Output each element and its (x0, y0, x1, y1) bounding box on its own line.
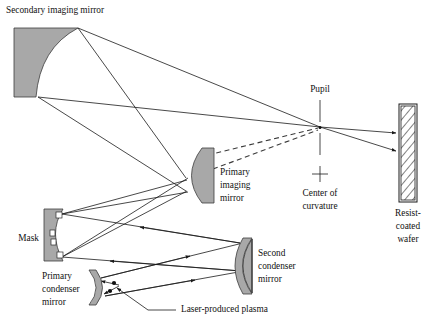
primary-imaging-mirror-body (192, 148, 215, 203)
ray-mask-to-primary-imaging-lower (62, 191, 187, 257)
optical-system-diagram: Secondary imaging mirror Primary imaging… (0, 0, 433, 333)
ray-primary-condenser-to-second-lower-arrow (105, 280, 195, 296)
primary-condenser-mirror-label-line3: mirror (42, 297, 67, 307)
mask-patch-middle-lower (51, 239, 56, 245)
pupil-marker[interactable] (319, 100, 322, 155)
resist-coated-wafer-hatch (401, 106, 415, 200)
resist-coated-wafer-label-line1: Resist- (395, 208, 421, 218)
resist-coated-wafer[interactable] (399, 104, 417, 202)
primary-condenser-mirror[interactable] (89, 270, 103, 305)
primary-condenser-mirror-crescent (89, 270, 103, 305)
ray-group-virtual-dashed (205, 128, 318, 172)
ray-primary-imaging-to-secondary-bottom (38, 97, 186, 191)
primary-imaging-mirror-label-line1: Primary (220, 167, 250, 177)
laser-produced-plasma-source-upper (112, 281, 116, 285)
laser-produced-plasma-source-lower (108, 289, 112, 293)
primary-imaging-mirror[interactable] (192, 148, 215, 203)
primary-condenser-mirror-label-line2: condenser (42, 284, 81, 294)
ray-group-mask-to-primary-imaging (62, 178, 188, 257)
center-of-curvature-label-line2: curvature (302, 201, 337, 211)
pupil-label: Pupil (310, 84, 330, 94)
secondary-imaging-mirror[interactable] (14, 28, 78, 97)
mask-label: Mask (18, 233, 39, 243)
primary-imaging-mirror-label-line3: mirror (220, 193, 245, 203)
second-condenser-mirror-label-line3: mirror (258, 274, 283, 284)
ray-plasma-to-condenser-upper (101, 281, 119, 285)
resist-coated-wafer-label-line2: coated (396, 221, 421, 231)
secondary-imaging-mirror-label: Secondary imaging mirror (6, 5, 105, 15)
center-of-curvature-label-line1: Center of (303, 188, 339, 198)
center-of-curvature-marker[interactable] (312, 166, 328, 182)
ray-secondary-top-to-pupil (78, 28, 320, 127)
mask-patch-bottom (57, 252, 63, 258)
mask-patch-top (56, 212, 62, 218)
mask[interactable] (44, 209, 63, 261)
resist-coated-wafer-label-line3: wafer (397, 234, 419, 244)
ray-mask-edge-to-primary-imaging (62, 192, 188, 214)
primary-condenser-mirror-label-line1: Primary (42, 271, 72, 281)
second-condenser-mirror[interactable] (235, 238, 252, 294)
pupil-point (319, 126, 322, 129)
second-condenser-mirror-label-line2: condenser (258, 261, 297, 271)
laser-produced-plasma-label: Laser-produced plasma (181, 304, 268, 314)
ray-pupil-to-wafer-lower (320, 127, 396, 151)
ray-secondary-bottom-to-pupil (38, 97, 320, 127)
ray-mask-edge2-to-primary-imaging (62, 178, 188, 257)
ray-primary-condenser-to-second-upper-arrow (101, 256, 190, 278)
mask-patch-middle-upper (50, 230, 55, 236)
virtual-ray-lower (205, 130, 318, 172)
secondary-imaging-mirror-body (14, 28, 78, 97)
second-condenser-mirror-label-line1: Second (258, 248, 286, 258)
figure-root: Secondary imaging mirror Primary imaging… (0, 0, 433, 333)
ray-mask-to-primary-imaging-upper (62, 180, 187, 214)
ray-second-condenser-to-mask-lower-arrow (110, 261, 241, 271)
primary-imaging-mirror-label-line2: imaging (220, 180, 251, 190)
ray-group-primary-to-secondary-imaging (38, 28, 186, 191)
ray-pupil-to-wafer-upper (320, 127, 396, 133)
ray-second-condenser-to-mask-upper-arrow (140, 227, 240, 243)
